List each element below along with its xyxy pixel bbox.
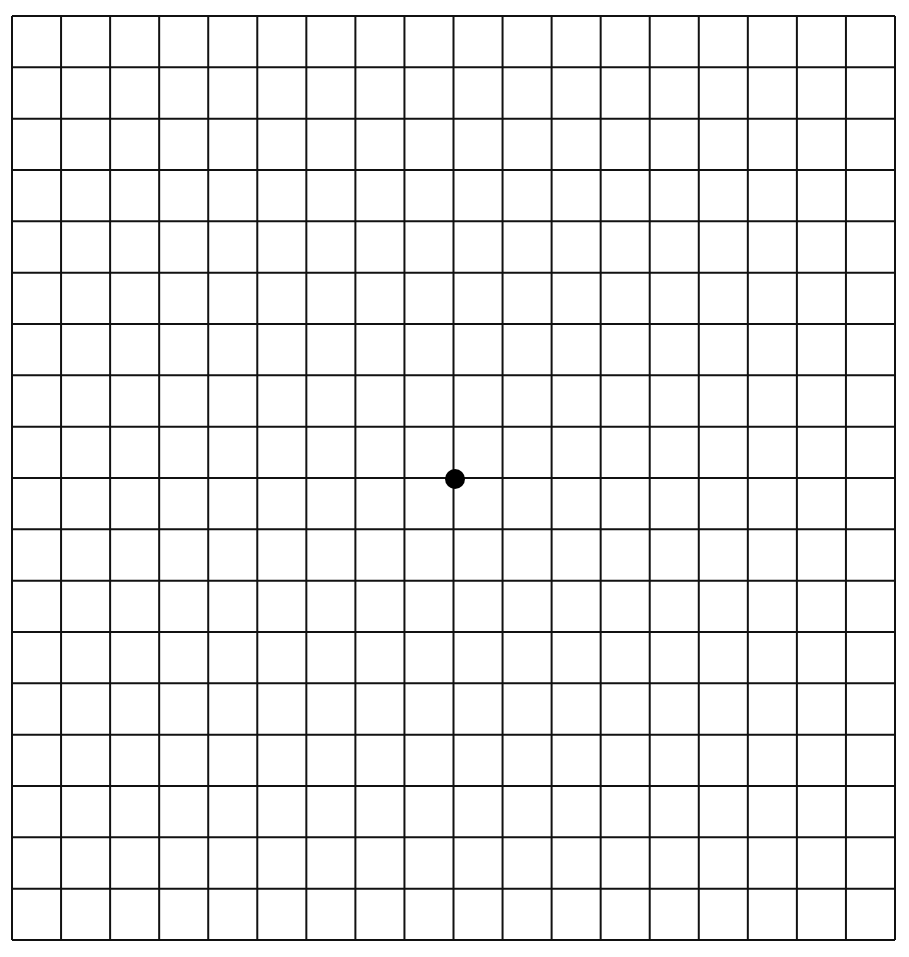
amsler-grid <box>0 0 909 957</box>
center-fixation-dot <box>445 469 465 489</box>
